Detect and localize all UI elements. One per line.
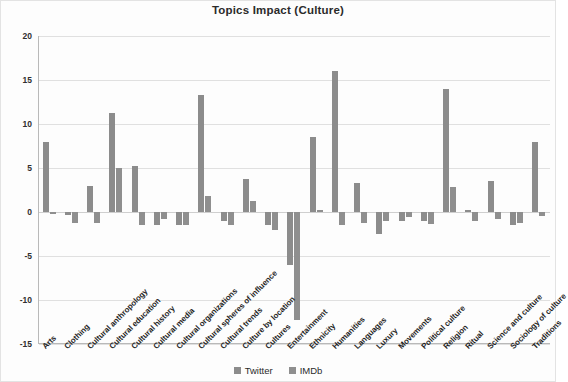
bar-imdb[interactable] xyxy=(294,212,300,320)
legend-item[interactable]: IMDb xyxy=(289,365,323,376)
bar-twitter[interactable] xyxy=(287,212,293,265)
bar-twitter[interactable] xyxy=(243,179,249,212)
bar-twitter[interactable] xyxy=(488,181,494,212)
bar-twitter[interactable] xyxy=(176,212,182,225)
bar-group xyxy=(395,36,417,343)
x-axis-category-labels: ArtsClothingCultural anthropologyCultura… xyxy=(38,344,550,382)
bar-imdb[interactable] xyxy=(50,212,56,214)
bar-group xyxy=(173,36,195,343)
bar-group xyxy=(306,36,328,343)
y-tick-label: -5 xyxy=(24,251,32,261)
bar-group xyxy=(462,36,484,343)
bar-imdb[interactable] xyxy=(383,212,389,221)
bar-imdb[interactable] xyxy=(539,212,545,216)
y-tick-label: 10 xyxy=(23,119,32,129)
bar-imdb[interactable] xyxy=(361,212,367,223)
bar-twitter[interactable] xyxy=(65,212,71,215)
bar-imdb[interactable] xyxy=(495,212,501,219)
bar-imdb[interactable] xyxy=(450,187,456,212)
bar-imdb[interactable] xyxy=(250,201,256,212)
legend-swatch-icon xyxy=(289,367,296,374)
y-tick-label: -15 xyxy=(20,339,32,349)
bar-imdb[interactable] xyxy=(317,210,323,212)
y-tick-label: 15 xyxy=(23,75,32,85)
bar-imdb[interactable] xyxy=(183,212,189,225)
bar-group xyxy=(195,36,217,343)
bar-twitter[interactable] xyxy=(198,95,204,212)
legend-swatch-icon xyxy=(234,367,241,374)
bar-group xyxy=(351,36,373,343)
bar-imdb[interactable] xyxy=(517,212,523,223)
bar-twitter[interactable] xyxy=(87,186,93,212)
bar-twitter[interactable] xyxy=(443,89,449,212)
bar-twitter[interactable] xyxy=(265,212,271,225)
y-axis: 20151050-5-10-15 xyxy=(0,36,34,344)
legend-label: Twitter xyxy=(245,365,273,376)
bar-imdb[interactable] xyxy=(161,212,167,219)
legend-label: IMDb xyxy=(300,365,323,376)
y-tick-label: -10 xyxy=(20,295,32,305)
bar-twitter[interactable] xyxy=(109,113,115,212)
bar-twitter[interactable] xyxy=(43,142,49,212)
bar-twitter[interactable] xyxy=(399,212,405,221)
bar-group xyxy=(106,36,128,343)
bar-imdb[interactable] xyxy=(72,212,78,223)
bar-imdb[interactable] xyxy=(272,212,278,230)
y-tick-label: 20 xyxy=(23,31,32,41)
y-tick-label: 0 xyxy=(27,207,32,217)
chart-legend: TwitterIMDb xyxy=(0,365,556,376)
bar-group xyxy=(328,36,350,343)
bar-group xyxy=(262,36,284,343)
bar-twitter[interactable] xyxy=(332,71,338,212)
bar-imdb[interactable] xyxy=(205,196,211,212)
bar-twitter[interactable] xyxy=(354,183,360,212)
bar-twitter[interactable] xyxy=(132,166,138,212)
bar-imdb[interactable] xyxy=(94,212,100,223)
bar-imdb[interactable] xyxy=(116,168,122,212)
bar-twitter[interactable] xyxy=(221,212,227,221)
bar-imdb[interactable] xyxy=(406,212,412,217)
bar-twitter[interactable] xyxy=(465,210,471,212)
bar-group xyxy=(61,36,83,343)
legend-item[interactable]: Twitter xyxy=(234,365,273,376)
bar-twitter[interactable] xyxy=(310,137,316,212)
bar-group xyxy=(39,36,61,343)
bar-group xyxy=(417,36,439,343)
bar-twitter[interactable] xyxy=(532,142,538,212)
bar-group xyxy=(506,36,528,343)
bar-imdb[interactable] xyxy=(339,212,345,225)
bar-twitter[interactable] xyxy=(510,212,516,225)
bar-group xyxy=(484,36,506,343)
bar-group xyxy=(373,36,395,343)
y-tick-label: 5 xyxy=(27,163,32,173)
bar-imdb[interactable] xyxy=(228,212,234,225)
bar-twitter[interactable] xyxy=(154,212,160,225)
chart-title: Topics Impact (Culture) xyxy=(0,4,556,16)
bar-imdb[interactable] xyxy=(428,212,434,224)
bar-group xyxy=(440,36,462,343)
bar-imdb[interactable] xyxy=(472,212,478,221)
bars-layer xyxy=(39,36,550,343)
bar-imdb[interactable] xyxy=(139,212,145,225)
bar-twitter[interactable] xyxy=(376,212,382,234)
bar-group xyxy=(84,36,106,343)
bar-twitter[interactable] xyxy=(421,212,427,221)
